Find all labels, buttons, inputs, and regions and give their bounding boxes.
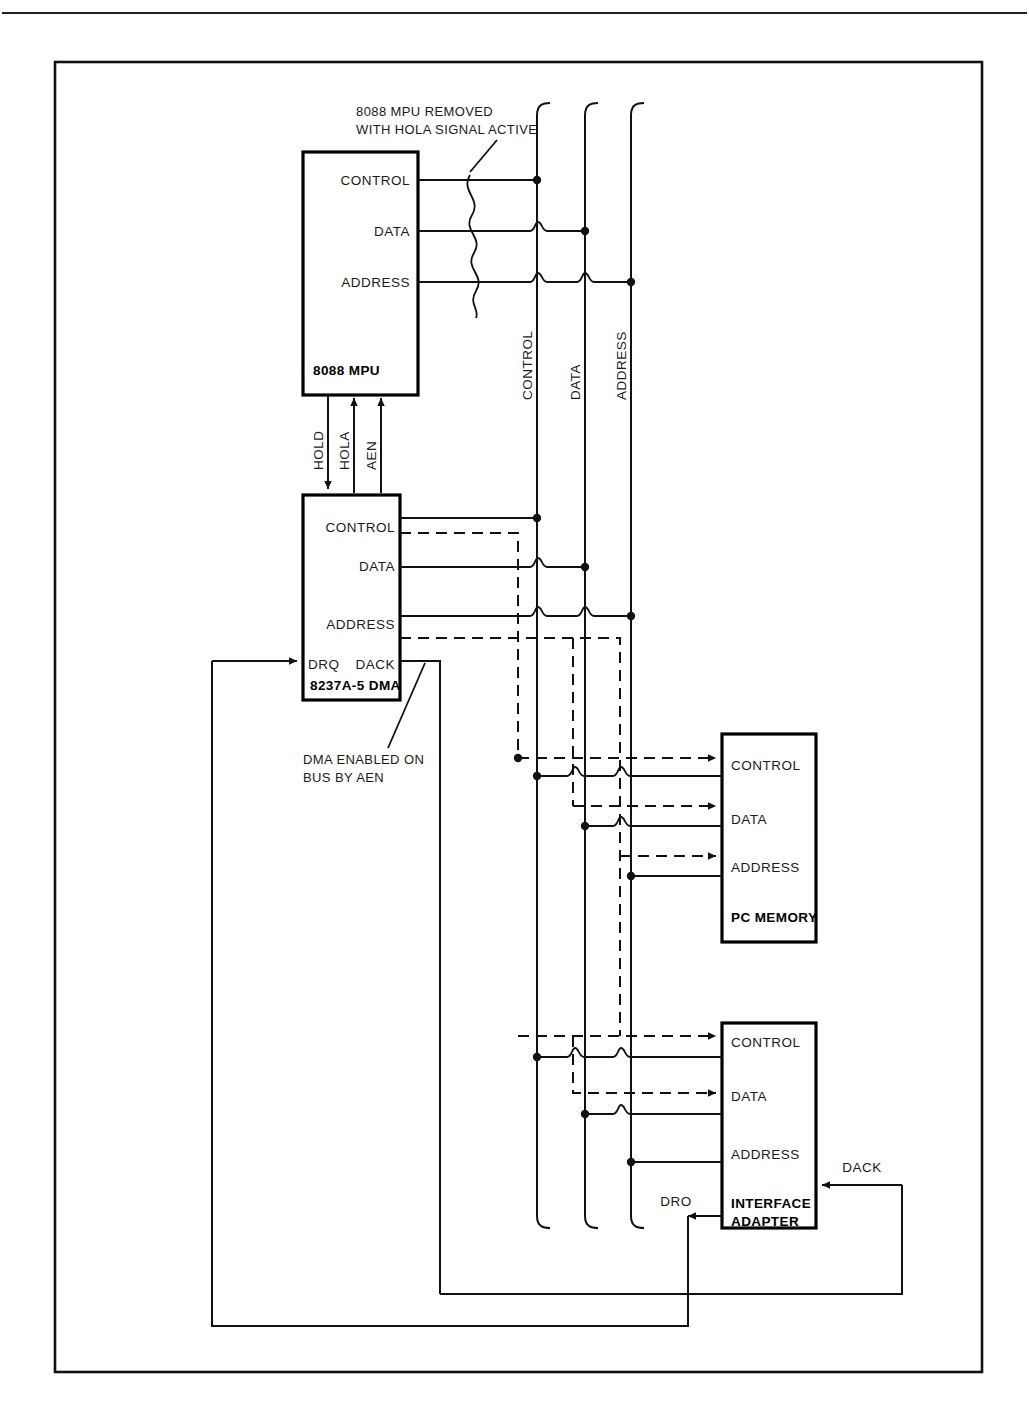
bus-jog-dma-addr-1 — [530, 607, 547, 616]
interface-pin-dack: DACK — [842, 1160, 882, 1175]
bus-address-top-hook — [631, 103, 644, 115]
bus-jog-if-data-1 — [613, 1105, 630, 1114]
annotation-dma-enabled-line1: DMA ENABLED ON — [303, 752, 424, 767]
block-mpu[interactable] — [303, 152, 418, 395]
dma-address-dashed-route — [400, 638, 620, 1036]
diagram-page: CONTROL DATA ADDRESS CONTROL DATA ADDRES… — [0, 0, 1029, 1427]
bus-jog-if-ctrl-2 — [613, 1048, 630, 1057]
memory-pin-address: ADDRESS — [731, 860, 800, 875]
junction-mpu-address — [627, 278, 635, 286]
interface-title-line2: ADAPTER — [731, 1214, 799, 1229]
dma-title: 8237A-5 DMA — [310, 678, 401, 693]
bus-jog-mpu-data — [530, 222, 547, 231]
signal-hola-label: HOLA — [337, 431, 352, 470]
bus-jog-mem-ctrl-2 — [613, 767, 630, 776]
junction-mpu-data — [581, 227, 589, 235]
interface-pin-address: ADDRESS — [731, 1147, 800, 1162]
leader-mpu-removed — [470, 140, 497, 172]
interface-data-dashed-wire — [573, 1036, 716, 1093]
memory-pin-control: CONTROL — [731, 758, 801, 773]
interface-pin-control: CONTROL — [731, 1035, 801, 1050]
dro-return-route — [212, 661, 688, 1326]
bus-jog-dma-data — [530, 558, 547, 567]
bus-label-control: CONTROL — [520, 330, 535, 400]
memory-title: PC MEMORY — [731, 910, 817, 925]
bus-data-top-hook — [585, 103, 598, 115]
annotation-mpu-removed-line2: WITH HOLA SIGNAL ACTIVE — [356, 122, 537, 137]
mpu-pin-control: CONTROL — [340, 173, 410, 188]
junction-dma-address — [627, 612, 635, 620]
junction-mpu-control — [533, 176, 541, 184]
bus-label-address: ADDRESS — [614, 331, 629, 400]
bus-control-top-hook — [537, 103, 550, 115]
dma-pin-data: DATA — [359, 559, 395, 574]
mpu-title: 8088 MPU — [313, 363, 380, 378]
memory-pin-data: DATA — [731, 812, 767, 827]
break-squiggle-mpu — [467, 175, 478, 318]
figure-frame — [55, 62, 982, 1372]
annotation-dma-enabled-line2: BUS BY AEN — [303, 770, 384, 785]
bus-label-data: DATA — [568, 364, 583, 400]
interface-pin-dro: DRO — [660, 1194, 692, 1209]
junction-dma-data — [581, 563, 589, 571]
signal-hold-label: HOLD — [311, 430, 326, 470]
annotation-mpu-removed-line1: 8088 MPU REMOVED — [356, 104, 493, 119]
mpu-pin-data: DATA — [374, 224, 410, 239]
dma-pin-drq: DRQ — [308, 657, 340, 672]
dma-pin-control: CONTROL — [325, 520, 395, 535]
bus-control-bottom-hook — [537, 1216, 550, 1228]
junction-dma-control — [533, 514, 541, 522]
signal-aen-label: AEN — [364, 441, 379, 470]
dma-pin-address: ADDRESS — [326, 617, 395, 632]
bus-address-bottom-hook — [631, 1216, 644, 1228]
interface-title-line1: INTERFACE — [731, 1196, 811, 1211]
bus-jog-mem-ctrl-1 — [567, 767, 584, 776]
bus-jog-if-ctrl-1 — [567, 1048, 584, 1057]
block-diagram: CONTROL DATA ADDRESS CONTROL DATA ADDRES… — [0, 0, 1029, 1427]
mpu-pin-address: ADDRESS — [341, 275, 410, 290]
interface-pin-data: DATA — [731, 1089, 767, 1104]
bus-jog-mem-data-1 — [613, 817, 630, 826]
bus-jog-mpu-addr-1 — [530, 273, 547, 282]
bus-data-bottom-hook — [585, 1216, 598, 1228]
dma-pin-dack: DACK — [355, 657, 395, 672]
